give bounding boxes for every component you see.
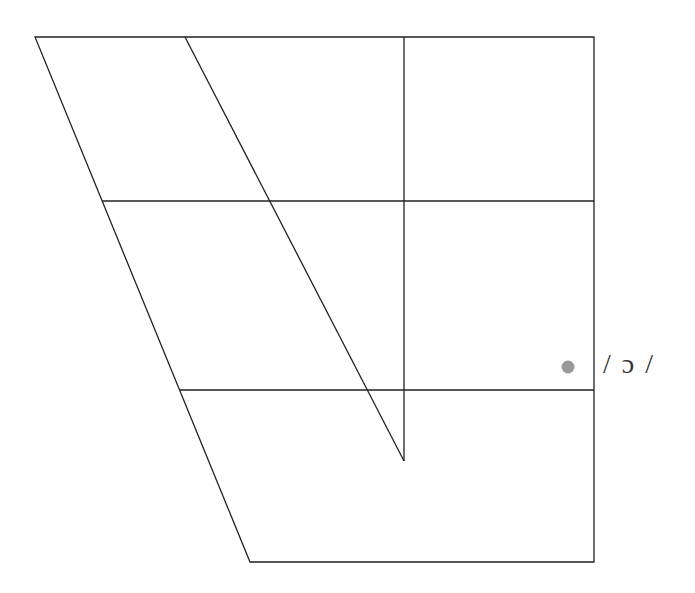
vowel-quadrilateral xyxy=(0,0,695,593)
vowel-point-open-o xyxy=(562,361,575,374)
vowel-label-open-o: / ɔ / xyxy=(603,348,655,380)
chart-outline xyxy=(35,37,594,562)
inner-diagonal-line xyxy=(185,37,404,461)
